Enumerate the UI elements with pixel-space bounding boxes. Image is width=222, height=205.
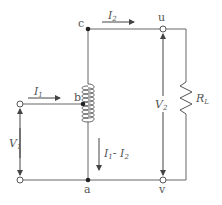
- node-a-dot: [86, 178, 91, 183]
- resistor-rl: [180, 82, 192, 114]
- terminal-input-bottom: [17, 177, 23, 183]
- label-node-b: b: [74, 91, 81, 104]
- label-v2: V2: [155, 98, 168, 112]
- circuit-diagram: c u b a v I2 I1 I1- I2 V1 V2 RL: [0, 0, 222, 205]
- terminal-input-top: [17, 101, 23, 107]
- label-i1: I1: [33, 85, 43, 99]
- label-node-u: u: [158, 11, 165, 24]
- wire-right: [180, 29, 192, 180]
- node-b-dot: [81, 102, 86, 107]
- label-node-c: c: [78, 17, 84, 30]
- label-i2: I2: [107, 9, 117, 23]
- node-c-dot: [86, 27, 91, 32]
- terminal-u: [160, 26, 166, 32]
- label-node-a: a: [84, 183, 91, 196]
- label-rl: RL: [195, 92, 209, 106]
- label-i1-minus-i2: I1- I2: [103, 147, 129, 161]
- label-node-v: v: [158, 183, 166, 196]
